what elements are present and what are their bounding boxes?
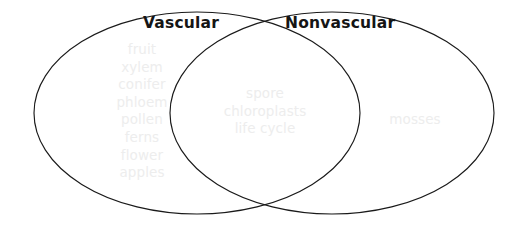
venn-word: chloroplasts (224, 103, 307, 121)
intersection-word-list: spore chloroplasts life cycle (205, 85, 325, 138)
venn-word: phloem (116, 94, 167, 112)
venn-word: pollen (121, 111, 163, 129)
venn-word: mosses (389, 111, 440, 129)
venn-word: conifer (118, 76, 165, 94)
venn-word: ferns (125, 129, 159, 147)
venn-word: apples (119, 164, 164, 182)
venn-diagram: Vascular Nonvascular fruit xylem conifer… (0, 0, 524, 229)
venn-word: fruit (128, 41, 156, 59)
right-set-title: Nonvascular (285, 16, 395, 32)
venn-word: xylem (121, 59, 163, 77)
left-set-title: Vascular (143, 16, 219, 32)
venn-word: flower (121, 147, 163, 165)
left-set-only-word-list: fruit xylem conifer phloem pollen ferns … (92, 41, 192, 182)
venn-word: spore (246, 85, 284, 103)
right-set-only-word-list: mosses (365, 111, 465, 129)
venn-word: life cycle (235, 120, 296, 138)
